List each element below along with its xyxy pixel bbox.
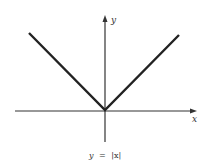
y-axis-label: y xyxy=(110,15,117,25)
caption-y: y xyxy=(88,151,94,160)
graph-caption: y = |x| xyxy=(88,151,121,160)
absolute-value-graph: x y y = |x| xyxy=(0,0,214,167)
caption-abs-x: |x| xyxy=(111,151,121,160)
caption-equals: = xyxy=(99,151,106,160)
y-axis xyxy=(103,15,108,142)
y-axis-arrow-icon xyxy=(103,15,108,22)
x-axis-arrow-icon xyxy=(190,109,197,114)
abs-value-curve xyxy=(29,33,179,110)
x-axis-label: x xyxy=(192,114,197,124)
